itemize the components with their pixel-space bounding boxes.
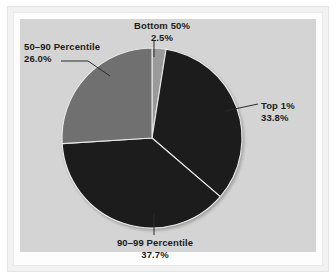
slice-label-50-90-percentile: 50–90 Percentile 26.0%	[24, 41, 100, 64]
slice-label-bottom-50: Bottom 50% 2.5%	[124, 20, 200, 43]
slice-label-90-99-percentile: 90–99 Percentile 37.7%	[95, 237, 215, 260]
slice-label-bottom-50-name: Bottom 50%	[134, 20, 190, 31]
slice-label-50-90-percentile-percent: 26.0%	[24, 53, 100, 65]
slice-label-90-99-percentile-name: 90–99 Percentile	[117, 237, 193, 248]
slice-label-50-90-percentile-name: 50–90 Percentile	[24, 41, 100, 52]
figure-container: Bottom 50% 2.5% Top 1% 33.8% 90–99 Perce…	[0, 0, 336, 279]
slice-label-top-1-name: Top 1%	[261, 100, 295, 111]
slice-label-top-1: Top 1% 33.8%	[261, 100, 295, 123]
slice-label-90-99-percentile-percent: 37.7%	[95, 249, 215, 261]
slice-label-bottom-50-percent: 2.5%	[124, 32, 200, 44]
slice-label-top-1-percent: 33.8%	[261, 112, 295, 124]
